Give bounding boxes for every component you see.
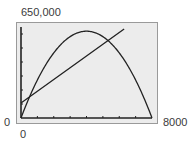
calculator-graph-screen [0, 0, 194, 144]
graph-screen-frame [17, 23, 158, 124]
